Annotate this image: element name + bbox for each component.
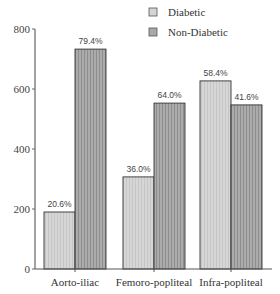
- bar-chart: 0200400600800 20.6%79.4%36.0%64.0%58.4%4…: [0, 0, 280, 294]
- x-axis: Aorto-iliacFemoro-poplitealInfra-poplite…: [35, 269, 272, 288]
- x-category-label: Femoro-popliteal: [116, 276, 192, 288]
- legend: DiabeticNon-Diabetic: [149, 6, 228, 38]
- bars: 20.6%79.4%36.0%64.0%58.4%41.6%: [44, 36, 262, 269]
- bar-diabetic: [44, 212, 75, 269]
- value-label: 79.4%: [78, 36, 103, 46]
- value-label: 64.0%: [157, 90, 182, 100]
- bar-group-aorto-iliac: 20.6%79.4%: [44, 36, 106, 269]
- legend-label: Diabetic: [168, 6, 205, 18]
- value-label: 36.0%: [126, 164, 151, 174]
- bar-diabetic: [200, 81, 231, 269]
- legend-item-diabetic: Diabetic: [149, 6, 205, 18]
- y-tick-label: 400: [14, 143, 31, 155]
- bar-non-diabetic: [154, 103, 185, 269]
- value-label: 41.6%: [234, 92, 259, 102]
- y-tick-label: 200: [14, 203, 31, 215]
- value-label: 58.4%: [203, 68, 228, 78]
- bar-non-diabetic: [75, 49, 106, 269]
- bar-diabetic: [123, 177, 154, 269]
- x-category-label: Aorto-iliac: [51, 276, 99, 288]
- bar-group-infra-popliteal: 58.4%41.6%: [200, 68, 262, 269]
- value-label: 20.6%: [47, 199, 72, 209]
- y-tick-label: 600: [14, 83, 31, 95]
- legend-swatch-icon: [149, 8, 157, 16]
- y-tick-label: 0: [25, 263, 31, 275]
- x-category-label: Infra-popliteal: [199, 276, 263, 288]
- legend-label: Non-Diabetic: [168, 26, 228, 38]
- bar-non-diabetic: [231, 105, 262, 269]
- legend-swatch-icon: [149, 28, 157, 36]
- legend-item-non-diabetic: Non-Diabetic: [149, 26, 228, 38]
- bar-group-femoro-popliteal: 36.0%64.0%: [123, 90, 185, 269]
- y-tick-label: 800: [14, 23, 31, 35]
- y-axis: 0200400600800: [14, 23, 36, 275]
